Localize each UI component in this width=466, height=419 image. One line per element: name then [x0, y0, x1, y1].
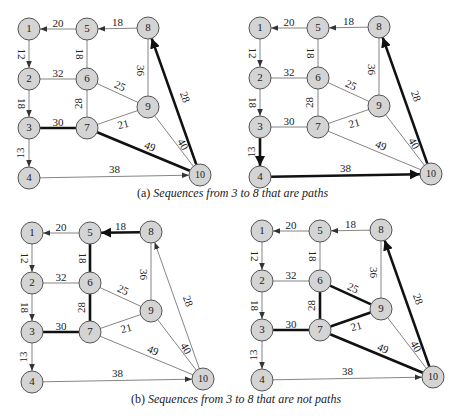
node-2: 2 — [251, 270, 273, 292]
node-1: 1 — [251, 220, 273, 242]
node-5: 5 — [307, 17, 329, 39]
graph-diagram: 2018121836322518283021134940283812345678… — [0, 0, 466, 419]
svg-text:9: 9 — [145, 100, 151, 112]
svg-text:9: 9 — [376, 99, 382, 111]
edge-8-5 — [101, 232, 140, 233]
svg-text:9: 9 — [148, 304, 154, 316]
caption-b-prefix: (b) — [131, 392, 148, 406]
svg-text:2: 2 — [259, 274, 265, 286]
edge-8-5 — [98, 28, 137, 29]
svg-text:4: 4 — [259, 373, 265, 385]
svg-text:7: 7 — [84, 121, 90, 133]
svg-text:3: 3 — [26, 121, 32, 133]
node-10: 10 — [420, 163, 442, 185]
node-5: 5 — [79, 222, 101, 244]
edge-weight-label: 18 — [249, 300, 261, 312]
edge-weight-label: 18 — [115, 220, 127, 232]
caption-b-text: Sequences from 3 to 8 that are not paths — [148, 392, 341, 406]
edge-weight-label: 28 — [178, 90, 193, 105]
edge-weight-label: 21 — [347, 116, 361, 130]
node-5: 5 — [76, 18, 98, 40]
svg-text:5: 5 — [317, 224, 323, 236]
caption-a: (a) Sequences from 3 to 8 that are paths — [137, 186, 328, 201]
edge-weight-label: 28 — [75, 302, 87, 314]
edge-10-8 — [385, 240, 430, 366]
edge-weight-label: 21 — [349, 319, 363, 333]
svg-text:7: 7 — [317, 323, 323, 335]
svg-text:3: 3 — [259, 323, 265, 335]
edge-weight-label: 18 — [74, 49, 86, 61]
edge-weight-label: 18 — [77, 253, 89, 265]
svg-text:1: 1 — [257, 21, 263, 33]
graph-panel-a-right: 2018121836322518283021134940283812345678… — [245, 15, 442, 188]
edge-weight-label: 25 — [113, 78, 128, 94]
svg-text:3: 3 — [257, 120, 263, 132]
node-1: 1 — [18, 18, 40, 40]
node-8: 8 — [137, 17, 159, 39]
node-8: 8 — [368, 16, 390, 38]
svg-text:4: 4 — [29, 375, 35, 387]
edge-weight-label: 21 — [119, 321, 133, 335]
edge-weight-label: 20 — [286, 219, 298, 231]
node-1: 1 — [21, 222, 43, 244]
edge-weight-label: 36 — [138, 269, 150, 281]
edge-weight-label: 12 — [19, 253, 31, 264]
node-4: 4 — [251, 369, 273, 391]
svg-text:4: 4 — [257, 170, 263, 182]
edge-weight-label: 12 — [16, 49, 28, 60]
caption-a-prefix: (a) — [137, 186, 153, 200]
node-10: 10 — [189, 164, 211, 186]
node-2: 2 — [249, 67, 271, 89]
node-9: 9 — [137, 96, 159, 118]
edge-weight-label: 18 — [345, 218, 357, 230]
edge-weight-label: 30 — [286, 318, 298, 330]
edge-weight-label: 21 — [116, 117, 130, 131]
edge-weight-label: 18 — [16, 98, 28, 110]
node-3: 3 — [251, 319, 273, 341]
node-10: 10 — [422, 366, 444, 388]
svg-text:5: 5 — [315, 21, 321, 33]
svg-text:2: 2 — [257, 71, 263, 83]
edge-weight-label: 30 — [56, 320, 68, 332]
svg-text:9: 9 — [378, 302, 384, 314]
svg-text:4: 4 — [26, 171, 32, 183]
edge-4-10 — [271, 174, 420, 177]
edge-weight-label: 25 — [116, 282, 131, 298]
edge-8-5 — [329, 27, 368, 28]
edge-10-8 — [383, 37, 428, 163]
graph-panel-b-left: 2018121836322518283021134940283812345678… — [17, 220, 214, 393]
edge-weight-label: 25 — [344, 77, 359, 93]
node-3: 3 — [249, 116, 271, 138]
svg-text:1: 1 — [26, 22, 32, 34]
caption-a-text: Sequences from 3 to 8 that are paths — [153, 186, 328, 200]
edge-weight-label: 20 — [56, 221, 68, 233]
node-8: 8 — [370, 219, 392, 241]
edge-weight-label: 38 — [340, 162, 352, 174]
svg-text:8: 8 — [378, 223, 384, 235]
svg-text:6: 6 — [317, 274, 323, 286]
node-7: 7 — [309, 319, 331, 341]
svg-text:8: 8 — [148, 225, 154, 237]
edge-weight-label: 30 — [53, 116, 65, 128]
edge-weight-label: 36 — [368, 267, 380, 279]
svg-text:1: 1 — [259, 224, 265, 236]
graph-panel-b-right: 2018121836322518283021134940283812345678… — [247, 218, 444, 391]
edge-8-5 — [331, 230, 370, 231]
node-8: 8 — [140, 221, 162, 243]
edge-weight-label: 18 — [307, 251, 319, 263]
node-2: 2 — [18, 68, 40, 90]
edge-weight-label: 13 — [14, 147, 26, 159]
edge-10-8 — [152, 38, 197, 164]
edge-weight-label: 18 — [305, 48, 317, 60]
caption-b: (b) Sequences from 3 to 8 that are not p… — [131, 392, 341, 407]
edge-weight-label: 28 — [409, 89, 424, 104]
edge-weight-label: 30 — [284, 115, 296, 127]
svg-text:10: 10 — [195, 169, 205, 180]
svg-text:2: 2 — [29, 276, 35, 288]
node-3: 3 — [18, 117, 40, 139]
node-6: 6 — [79, 272, 101, 294]
svg-text:10: 10 — [428, 371, 438, 382]
node-9: 9 — [370, 298, 392, 320]
node-1: 1 — [249, 17, 271, 39]
node-2: 2 — [21, 272, 43, 294]
